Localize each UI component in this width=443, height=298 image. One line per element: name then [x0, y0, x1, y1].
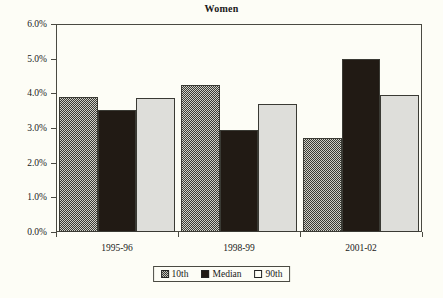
bar-1998-99-10th: [181, 85, 220, 232]
legend-label: Median: [212, 269, 241, 279]
x-axis-tick: [56, 232, 57, 237]
bars-layer: [56, 24, 422, 232]
y-tick-label: 4.0%: [27, 88, 47, 98]
chart-title: Women: [0, 3, 443, 14]
bar-1998-99-90th: [258, 104, 297, 232]
x-axis: 1995-961998-992001-02: [56, 232, 422, 266]
y-tick-label: 6.0%: [27, 19, 47, 29]
legend-item-Median[interactable]: Median: [201, 269, 241, 279]
legend-label: 10th: [172, 269, 189, 279]
legend-label: 90th: [266, 269, 283, 279]
black-swatch: [201, 270, 209, 278]
x-axis-tick: [300, 232, 301, 237]
legend-item-90th[interactable]: 90th: [255, 269, 283, 279]
bar-2001-02-10th: [303, 138, 342, 232]
y-tick-label: 5.0%: [27, 54, 47, 64]
bar-2001-02-90th: [380, 95, 419, 232]
y-tick-label: 2.0%: [27, 158, 47, 168]
x-axis-tick: [422, 232, 423, 237]
x-axis-tick: [178, 232, 179, 237]
chart-legend: 10thMedian90th: [153, 266, 291, 282]
y-tick-label: 1.0%: [27, 192, 47, 202]
bar-1998-99-Median: [220, 130, 259, 232]
y-axis: 0.0%1.0%2.0%3.0%4.0%5.0%6.0%: [0, 0, 56, 232]
x-axis-label-2001-02: 2001-02: [345, 243, 377, 253]
hatched-gray-swatch: [161, 270, 169, 278]
y-tick-label: 3.0%: [27, 123, 47, 133]
bar-1995-96-Median: [98, 110, 137, 232]
legend-item-10th[interactable]: 10th: [161, 269, 189, 279]
bar-1995-96-90th: [136, 98, 175, 233]
x-axis-label-1998-99: 1998-99: [223, 243, 255, 253]
white-swatch: [255, 270, 263, 278]
chart-root: Women 0.0%1.0%2.0%3.0%4.0%5.0%6.0% 1995-…: [0, 0, 443, 298]
x-axis-label-1995-96: 1995-96: [101, 243, 133, 253]
bar-1995-96-10th: [59, 97, 98, 232]
y-tick-label: 0.0%: [27, 227, 47, 237]
bar-2001-02-Median: [342, 59, 381, 232]
